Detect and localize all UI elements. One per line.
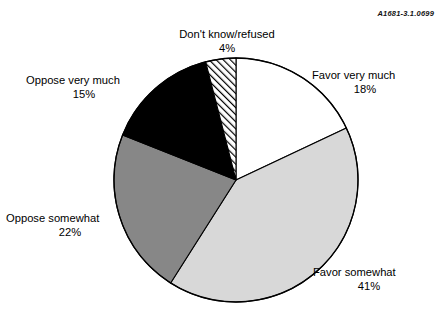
slice-label-value: 18% [312,83,418,97]
slice-label-name: Don't know/refused [164,28,290,42]
slice-label-name: Oppose very much [26,74,148,88]
slice-label-oppose-very-much: Oppose very much 15% [26,74,148,101]
slice-label-favor-very-much: Favor very much 18% [312,69,434,96]
slice-label-oppose-somewhat: Oppose somewhat 22% [6,212,140,239]
pie-chart-figure: A1681-3.1.0699 Don't know/refused 4% Fav… [0,0,442,332]
slice-label-value: 4% [164,42,290,56]
slice-label-name: Favor somewhat [313,266,439,280]
slice-label-value: 15% [26,88,142,102]
reference-code: A1681-3.1.0699 [377,9,434,18]
slice-label-value: 41% [313,280,425,294]
slice-label-favor-somewhat: Favor somewhat 41% [313,266,439,293]
slice-label-value: 22% [6,226,134,240]
slice-label-name: Oppose somewhat [6,212,140,226]
slice-label-name: Favor very much [312,69,434,83]
slice-label-dont-know-refused: Don't know/refused 4% [164,28,290,55]
